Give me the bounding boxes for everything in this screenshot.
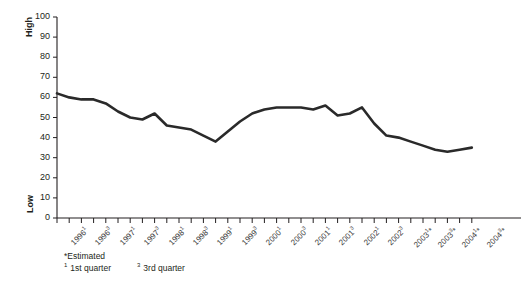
footnote-estimated: *Estimated <box>64 250 185 262</box>
footnote-q3-text: 3rd quarter <box>143 263 185 273</box>
axis-lines <box>57 17 521 218</box>
footnote-q3-marker: 3 <box>137 262 140 268</box>
footnote-q1-marker: 1 <box>64 262 67 268</box>
data-series-line <box>57 93 472 151</box>
plot-area <box>0 0 532 291</box>
footnote-q3: 33rd quarter <box>137 262 185 274</box>
footnotes: *Estimated 11st quarter33rd quarter <box>64 250 185 275</box>
y-axis-ticks <box>53 17 57 218</box>
footnote-q1: 11st quarter <box>64 262 111 274</box>
footnote-q1-text: 1st quarter <box>70 263 111 273</box>
x-axis-ticks <box>57 218 472 223</box>
line-chart: High Low 1009080706050403020100 19961199… <box>0 0 532 291</box>
footnote-quarters: 11st quarter33rd quarter <box>64 262 185 274</box>
